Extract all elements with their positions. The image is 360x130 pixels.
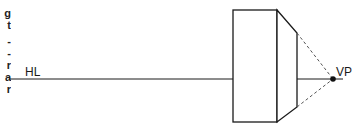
- vanishing-point-dot: [330, 76, 336, 82]
- rear-face-rectangle: [233, 10, 277, 122]
- perspective-diagram: g t - - r a r HL VP: [0, 0, 360, 130]
- receding-face: [277, 10, 297, 122]
- convergence-line-top: [297, 33, 333, 79]
- horizon-line-label: HL: [25, 66, 40, 78]
- diagram-svg: [0, 0, 360, 130]
- convergence-line-bottom: [297, 79, 333, 107]
- vanishing-point-label: VP: [336, 66, 352, 78]
